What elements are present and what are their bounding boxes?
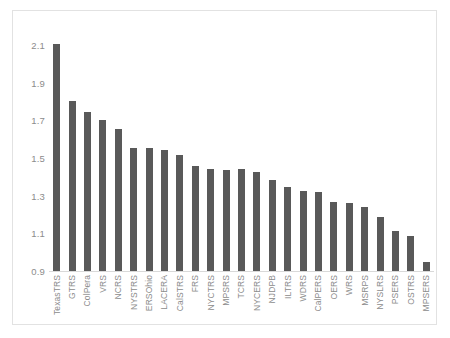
x-axis-tick: NJDPB [265, 273, 280, 325]
x-axis-tick-label: PSERS [390, 275, 400, 304]
bar[interactable] [253, 172, 260, 271]
x-axis-tick: OSTRS [403, 273, 418, 325]
bar[interactable] [238, 169, 245, 271]
bar[interactable] [269, 180, 276, 271]
x-axis-tick: TexasTRS [49, 273, 64, 325]
x-axis-tick: PSERS [388, 273, 403, 325]
bar[interactable] [223, 170, 230, 271]
y-axis-tick-label: 1.7 [31, 115, 45, 126]
bar[interactable] [176, 155, 183, 271]
x-axis-tick: NYCERS [249, 273, 264, 325]
bar[interactable] [69, 101, 76, 271]
chart-frame: 2.11.91.71.51.31.10.9 TexasTRSGTRSColPer… [12, 10, 437, 325]
x-axis-tick: NYSTRS [126, 273, 141, 325]
x-axis-tick: MPSRS [218, 273, 233, 325]
x-axis-tick-label: FRS [190, 275, 200, 292]
bar[interactable] [53, 44, 60, 271]
x-axis-tick-label: VRS [98, 275, 108, 293]
x-axis-tick-label: ColPera [82, 275, 92, 306]
x-axis-tick: FRS [188, 273, 203, 325]
y-axis-tick-label: 2.1 [31, 40, 45, 51]
x-axis-tick-label: CalSTRS [175, 275, 185, 311]
y-axis-tick-label: 1.9 [31, 77, 45, 88]
bar[interactable] [300, 191, 307, 271]
x-axis-tick-label: NYCTRS [206, 275, 216, 311]
y-axis: 2.11.91.71.51.31.10.9 [13, 11, 49, 326]
x-axis-tick: CalPERS [311, 273, 326, 325]
y-axis-tick-label: 0.9 [31, 266, 45, 277]
bar[interactable] [161, 150, 168, 271]
x-axis-tick: MSRPS [357, 273, 372, 325]
bar[interactable] [84, 112, 91, 271]
x-axis-tick: CalSTRS [172, 273, 187, 325]
x-axis-tick: NYCTRS [203, 273, 218, 325]
bar[interactable] [115, 129, 122, 271]
x-axis-tick-label: OSTRS [406, 275, 416, 305]
x-axis-tick-label: NCRS [113, 275, 123, 300]
bar[interactable] [361, 207, 368, 271]
x-axis-tick: NYSLRS [372, 273, 387, 325]
x-axis-tick-label: MPSRS [221, 275, 231, 306]
bar[interactable] [192, 166, 199, 271]
x-axis-tick-label: ILTRS [283, 275, 293, 299]
x-axis-tick-label: NYSTRS [129, 275, 139, 310]
bars-layer [49, 45, 434, 271]
x-axis-tick-label: NJDPB [267, 275, 277, 303]
x-axis-tick: MPSERS [419, 273, 434, 325]
bar[interactable] [99, 120, 106, 271]
bar[interactable] [330, 202, 337, 271]
x-axis-tick-label: CalPERS [313, 275, 323, 312]
x-axis-tick: TCRS [234, 273, 249, 325]
y-axis-tick-label: 1.5 [31, 153, 45, 164]
bar[interactable] [392, 231, 399, 271]
bar[interactable] [146, 148, 153, 271]
bar[interactable] [407, 236, 414, 271]
x-axis-tick: WRS [342, 273, 357, 325]
x-axis-tick-label: NYCERS [252, 275, 262, 311]
x-axis-tick-label: LACERA [159, 275, 169, 310]
bar[interactable] [207, 169, 214, 271]
x-axis-tick: LACERA [157, 273, 172, 325]
bar[interactable] [315, 192, 322, 271]
x-axis-tick-label: GTRS [67, 275, 77, 299]
x-axis-tick: ILTRS [280, 273, 295, 325]
y-axis-tick-label: 1.3 [31, 190, 45, 201]
x-axis-tick: WDRS [295, 273, 310, 325]
bar[interactable] [130, 148, 137, 271]
bar[interactable] [377, 217, 384, 271]
x-axis-tick-label: WRS [344, 275, 354, 295]
x-axis-tick-label: TCRS [236, 275, 246, 299]
x-axis-tick: NCRS [111, 273, 126, 325]
y-axis-tick-label: 1.1 [31, 228, 45, 239]
x-axis-tick-label: MSRPS [360, 275, 370, 306]
x-axis-tick-label: ERSOhio [144, 275, 154, 311]
bar[interactable] [423, 262, 430, 271]
bar[interactable] [284, 187, 291, 271]
x-axis-tick: ColPera [80, 273, 95, 325]
x-axis-tick: OERS [326, 273, 341, 325]
x-axis: TexasTRSGTRSColPeraVRSNCRSNYSTRSERSOhioL… [49, 273, 434, 325]
x-axis-tick-label: WDRS [298, 275, 308, 301]
x-axis-tick: VRS [95, 273, 110, 325]
x-axis-tick-label: NYSLRS [375, 275, 385, 310]
x-axis-tick: ERSOhio [141, 273, 156, 325]
x-axis-tick-label: MPSERS [421, 275, 431, 312]
x-axis-tick: GTRS [64, 273, 79, 325]
x-axis-tick-label: OERS [329, 275, 339, 300]
x-axis-tick-label: TexasTRS [52, 275, 62, 315]
x-axis-line [49, 271, 434, 272]
bar[interactable] [346, 203, 353, 271]
